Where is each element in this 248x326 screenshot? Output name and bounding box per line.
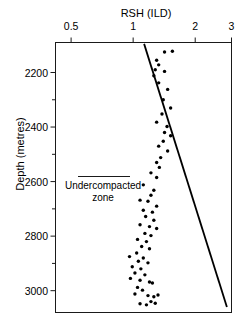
data-point — [148, 280, 151, 283]
data-point — [146, 261, 149, 264]
data-point — [158, 166, 161, 169]
undercompacted-zone-label-line1: Undercompacted — [65, 180, 141, 191]
data-point — [135, 251, 138, 254]
data-point — [163, 131, 166, 134]
data-point — [131, 265, 134, 268]
data-point — [152, 189, 155, 192]
data-point — [155, 176, 158, 179]
data-point — [148, 247, 151, 250]
y-tick-label: 2800 — [6, 230, 48, 242]
data-point — [133, 271, 136, 274]
data-point — [155, 120, 158, 123]
data-point — [166, 88, 169, 91]
data-point — [129, 277, 132, 280]
data-point — [142, 209, 145, 212]
data-point — [137, 260, 140, 263]
data-point — [160, 112, 163, 115]
data-point — [162, 140, 165, 143]
data-point — [149, 171, 152, 174]
y-axis-ticks — [51, 73, 56, 291]
data-point — [148, 225, 151, 228]
x-tick-label: 1 — [130, 20, 136, 32]
data-point — [157, 63, 160, 66]
data-point — [145, 240, 148, 243]
data-point — [155, 227, 158, 230]
data-point — [155, 59, 158, 62]
data-point — [151, 210, 154, 213]
trend-line — [144, 44, 227, 307]
x-tick-label: 0.5 — [64, 20, 79, 32]
data-point — [154, 68, 157, 71]
y-tick-label: 2400 — [6, 121, 48, 133]
data-point — [138, 302, 141, 305]
x-tick-label: 3 — [229, 20, 235, 32]
data-point — [144, 215, 147, 218]
chart-figure: RSH (ILD) Depth (metres) Undercompacted … — [0, 0, 248, 326]
data-point — [142, 183, 145, 186]
data-point — [140, 245, 143, 248]
data-point — [138, 223, 141, 226]
data-point — [163, 70, 166, 73]
data-point — [146, 200, 149, 203]
data-point — [155, 161, 158, 164]
data-point — [165, 125, 168, 128]
data-point — [156, 293, 159, 296]
data-point — [136, 238, 139, 241]
data-point — [157, 144, 160, 147]
data-point — [143, 232, 146, 235]
data-point — [149, 300, 152, 303]
data-point — [141, 288, 144, 291]
data-point — [152, 295, 155, 298]
data-point — [171, 50, 174, 53]
x-tick-label: 2 — [192, 20, 198, 32]
data-point — [133, 292, 136, 295]
data-point — [169, 106, 172, 109]
data-point — [128, 255, 131, 258]
y-tick-label: 2600 — [6, 176, 48, 188]
data-point — [142, 256, 145, 259]
plot-area — [0, 0, 248, 326]
data-point — [152, 219, 155, 222]
data-point — [166, 149, 169, 152]
data-point — [149, 234, 152, 237]
data-point — [146, 294, 149, 297]
data-point — [136, 286, 139, 289]
data-point — [159, 156, 162, 159]
y-tick-label: 2200 — [6, 67, 48, 79]
data-point — [163, 50, 166, 53]
data-point — [143, 273, 146, 276]
y-tick-label: 3000 — [6, 285, 48, 297]
data-point — [155, 204, 158, 207]
data-point — [139, 267, 142, 270]
data-point — [154, 302, 157, 305]
data-point — [145, 303, 148, 306]
data-point — [151, 281, 154, 284]
data-point — [149, 194, 152, 197]
undercompacted-zone-label-line2: zone — [92, 192, 114, 203]
data-point — [138, 198, 141, 201]
data-point — [138, 279, 141, 282]
plot-frame — [56, 43, 232, 313]
x-axis-ticks — [71, 38, 231, 43]
data-points — [128, 50, 174, 307]
